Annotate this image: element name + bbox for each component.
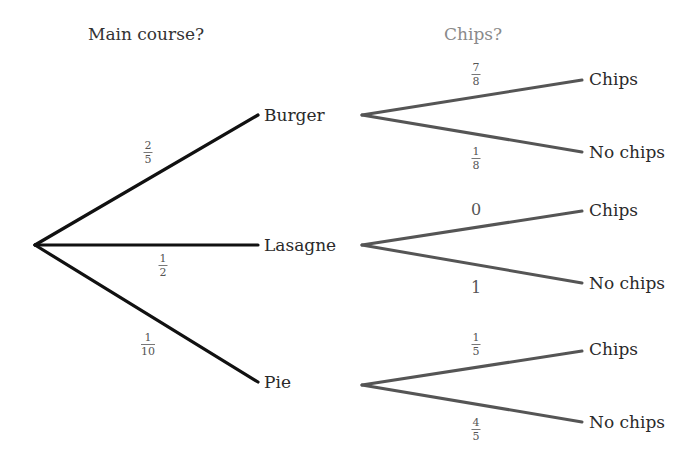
outcome-burger: Burger <box>264 107 325 124</box>
outcome-lasagne: Lasagne <box>264 237 336 254</box>
prob-denominator: 5 <box>473 430 480 442</box>
outcome-pie-chips: Chips <box>589 341 638 358</box>
prob-numerator: 1 <box>472 332 481 344</box>
prob-denominator: 5 <box>145 153 152 165</box>
branch-burger <box>35 115 258 245</box>
prob-burger-chips: 7 8 <box>472 62 481 87</box>
header-chips: Chips? <box>444 26 502 43</box>
prob-denominator: 2 <box>160 266 167 278</box>
prob-numerator: 7 <box>472 62 481 74</box>
prob-pie-chips: 1 5 <box>472 332 481 357</box>
header-main-course: Main course? <box>88 26 204 43</box>
prob-denominator: 5 <box>473 345 480 357</box>
prob-numerator: 1 <box>159 253 168 265</box>
branch-pie <box>35 245 258 382</box>
outcome-lasagne-nochips: No chips <box>589 275 665 292</box>
prob-numerator: 2 <box>144 140 153 152</box>
prob-burger: 2 5 <box>144 140 153 165</box>
prob-pie: 1 10 <box>141 332 155 357</box>
prob-denominator: 10 <box>141 345 155 357</box>
outcome-pie: Pie <box>264 374 291 391</box>
prob-denominator: 8 <box>473 75 480 87</box>
prob-lasagne: 1 2 <box>159 253 168 278</box>
outcome-pie-nochips: No chips <box>589 414 665 431</box>
outcome-burger-chips: Chips <box>589 71 638 88</box>
prob-burger-nochips: 1 8 <box>472 146 481 171</box>
prob-lasagne-chips: 0 <box>471 202 481 218</box>
prob-numerator: 1 <box>472 146 481 158</box>
prob-numerator: 4 <box>472 417 481 429</box>
outcome-lasagne-chips: Chips <box>589 202 638 219</box>
prob-numerator: 1 <box>144 332 153 344</box>
prob-lasagne-nochips: 1 <box>471 280 481 296</box>
outcome-burger-nochips: No chips <box>589 144 665 161</box>
prob-pie-nochips: 4 5 <box>472 417 481 442</box>
prob-denominator: 8 <box>473 159 480 171</box>
